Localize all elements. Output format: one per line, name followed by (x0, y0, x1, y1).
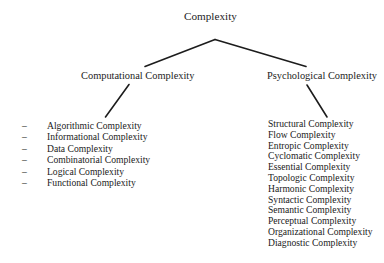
list-item: – Functional Complexity (22, 177, 150, 188)
connector-root-to-psychological (215, 40, 306, 67)
leaf-list-computational: – Algorithmic Complexity – Informational… (22, 120, 150, 188)
root-node-complexity: Complexity (184, 11, 237, 22)
dash-bullet-icon: – (22, 143, 47, 154)
dash-bullet-icon: – (22, 177, 47, 188)
connector-psychological-to-leaves (307, 85, 327, 117)
leaf-label: Logical Complexity (47, 166, 124, 177)
connector-computational-to-leaves (106, 85, 130, 118)
leaf-list-psychological: Structural Complexity Flow Complexity En… (268, 119, 373, 249)
dash-bullet-icon: – (22, 120, 47, 131)
leaf-label: Data Complexity (47, 143, 113, 154)
leaf-label: Informational Complexity (47, 131, 147, 142)
list-item: Harmonic Complexity (268, 184, 373, 195)
list-item: – Data Complexity (22, 143, 150, 154)
connector-root-to-computational (145, 40, 215, 67)
list-item: – Combinatorial Complexity (22, 154, 150, 165)
list-item: – Informational Complexity (22, 131, 150, 142)
list-item: – Algorithmic Complexity (22, 120, 150, 131)
leaf-label: Combinatorial Complexity (47, 154, 150, 165)
list-item: Diagnostic Complexity (268, 238, 373, 249)
branch-node-computational-complexity: Computational Complexity (81, 71, 194, 81)
list-item: – Logical Complexity (22, 166, 150, 177)
dash-bullet-icon: – (22, 166, 47, 177)
leaf-label: Functional Complexity (47, 177, 136, 188)
list-item: Flow Complexity (268, 130, 373, 141)
dash-bullet-icon: – (22, 131, 47, 142)
leaf-label: Algorithmic Complexity (47, 120, 142, 131)
dash-bullet-icon: – (22, 154, 47, 165)
complexity-tree-diagram: Complexity Computational Complexity Psyc… (0, 0, 384, 263)
branch-node-psychological-complexity: Psychological Complexity (267, 71, 377, 81)
